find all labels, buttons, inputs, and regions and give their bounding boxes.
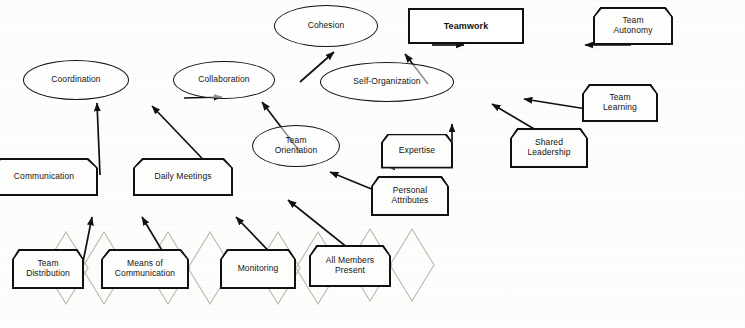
node-self-organization[interactable]: Self-Organization	[320, 62, 454, 102]
node-label: Teamwork	[441, 21, 492, 31]
node-collaboration[interactable]: Collaboration	[173, 61, 275, 99]
node-label: Monitoring	[235, 264, 282, 274]
node-coordination[interactable]: Coordination	[23, 60, 129, 100]
node-all-members-present[interactable]: All Members Present	[309, 245, 391, 287]
node-label: Collaboration	[195, 75, 252, 85]
node-label: Cohesion	[305, 21, 348, 31]
node-team-distribution[interactable]: Team Distribution	[12, 249, 84, 289]
node-label: Team Learning	[600, 93, 640, 112]
node-layer: CohesionTeamworkTeam AutonomyCoordinatio…	[0, 0, 745, 328]
node-shared-leadership[interactable]: Shared Leadership	[510, 128, 588, 168]
node-monitoring[interactable]: Monitoring	[220, 249, 296, 289]
node-means-of-communication[interactable]: Means of Communication	[101, 249, 189, 289]
node-team-learning[interactable]: Team Learning	[582, 84, 658, 122]
node-label: Self-Organization	[350, 77, 423, 87]
node-label: Means of Communication	[112, 259, 178, 278]
node-label: Expertise	[396, 146, 438, 156]
node-label: Team Distribution	[23, 259, 73, 278]
node-label: Coordination	[48, 75, 103, 85]
node-daily-meetings[interactable]: Daily Meetings	[133, 158, 233, 196]
node-cohesion[interactable]: Cohesion	[274, 5, 378, 47]
node-team-orientation[interactable]: Team Orientation	[252, 125, 340, 167]
concept-diagram-canvas: CohesionTeamworkTeam AutonomyCoordinatio…	[0, 0, 745, 328]
node-label: Team Orientation	[272, 136, 321, 155]
node-label: Personal Attributes	[389, 186, 432, 205]
node-label: Shared Leadership	[524, 138, 573, 157]
node-label: Team Autonomy	[610, 16, 655, 35]
node-teamwork[interactable]: Teamwork	[408, 8, 524, 44]
node-personal-attributes[interactable]: Personal Attributes	[371, 176, 449, 216]
node-label: Communication	[11, 172, 77, 182]
node-label: All Members Present	[323, 256, 377, 275]
node-communication[interactable]: Communication	[0, 158, 98, 196]
node-label: Daily Meetings	[151, 172, 214, 182]
node-expertise[interactable]: Expertise	[381, 134, 453, 169]
node-team-autonomy[interactable]: Team Autonomy	[593, 7, 673, 45]
